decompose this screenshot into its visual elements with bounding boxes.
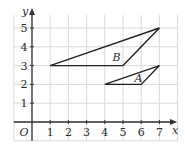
y-tick-label: 2 bbox=[21, 78, 28, 91]
triangle-a bbox=[105, 66, 160, 85]
x-tick-label: 3 bbox=[83, 126, 90, 139]
x-tick-label: 4 bbox=[101, 126, 108, 139]
coordinate-diagram: 123456712345xyOAB bbox=[0, 0, 185, 147]
origin-label: O bbox=[19, 126, 28, 139]
x-tick-label: 6 bbox=[138, 126, 145, 139]
x-tick-label: 2 bbox=[65, 126, 72, 139]
labels: 123456712345xyOAB bbox=[19, 5, 178, 139]
x-tick-label: 1 bbox=[47, 126, 54, 139]
x-tick-label: 5 bbox=[120, 126, 127, 139]
triangle-a-label: A bbox=[133, 72, 142, 85]
y-tick-label: 3 bbox=[21, 60, 28, 73]
y-axis-label: y bbox=[21, 5, 29, 18]
y-axis-arrow-icon bbox=[29, 8, 35, 15]
diagram-svg: 123456712345xyOAB bbox=[0, 0, 185, 147]
triangle-b-label: B bbox=[112, 51, 121, 64]
x-tick-label: 7 bbox=[156, 126, 163, 139]
x-axis-label: x bbox=[172, 124, 179, 137]
y-tick-label: 5 bbox=[21, 22, 28, 35]
y-tick-label: 1 bbox=[21, 97, 28, 110]
y-tick-label: 4 bbox=[21, 41, 28, 54]
